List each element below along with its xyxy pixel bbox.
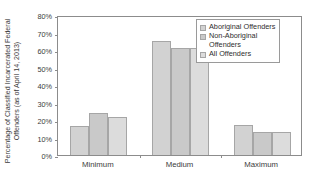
y-axis-tick-mark [55,87,58,88]
y-axis-tick-label: 20% [37,117,52,126]
legend-item-label: All Offenders [209,50,251,58]
legend-item: Aboriginal Offenders [200,23,275,31]
legend-item: Non-Aboriginal Offenders [200,32,275,49]
y-axis-tick-label: 30% [37,99,52,108]
y-axis-tick-label: 10% [37,134,52,143]
y-axis-tick-label: 70% [37,29,52,38]
y-axis-tick-label: 50% [37,64,52,73]
y-axis-tick-mark [55,70,58,71]
y-axis-tick-mark [55,105,58,106]
y-axis-tick-mark [55,52,58,53]
y-axis-title-line-2: Offenders (as of April 14, 2013) [13,18,22,162]
x-axis-tick-label: Medium [166,160,194,169]
bar-group [70,17,127,155]
chart-legend: Aboriginal OffendersNon-Aboriginal Offen… [196,19,280,63]
bar [152,41,171,155]
y-axis-title-line-1: Percentage of Classified Incarcerated Fe… [4,18,12,162]
y-axis-tick-mark [55,35,58,36]
bar [108,117,127,156]
y-axis-tick-label: 0% [41,152,52,161]
y-axis-tick-label: 80% [37,12,52,21]
y-axis-tick-mark [55,140,58,141]
bar [70,126,89,155]
bar [171,48,190,155]
y-axis-tick-mark [55,122,58,123]
y-axis-tick-label: 60% [37,47,52,56]
y-axis-tick-mark [55,157,58,158]
y-axis-tick-label: 40% [37,82,52,91]
bar [253,132,272,155]
y-axis-title: Percentage of Classified Incarcerated Fe… [0,0,26,181]
bar-chart: Percentage of Classified Incarcerated Fe… [0,0,311,181]
y-axis-tick-mark [55,17,58,18]
y-axis-tick-labels: 0%10%20%30%40%50%60%70%80% [26,0,56,181]
legend-swatch-all [200,52,206,58]
bar [190,48,209,155]
bar [272,132,291,155]
x-axis-tick-label: Minimum [82,160,114,169]
legend-item-label: Aboriginal Offenders [209,23,275,31]
bar [89,113,108,155]
x-axis-tick-mark [221,155,222,158]
legend-item-label: Non-Aboriginal Offenders [209,32,257,49]
legend-swatch-non-aboriginal [200,34,206,40]
legend-swatch-aboriginal [200,25,206,31]
x-axis-tick-label: Maximum [244,160,278,169]
legend-item: All Offenders [200,50,275,58]
bar [234,125,253,155]
x-axis-tick-mark [140,155,141,158]
